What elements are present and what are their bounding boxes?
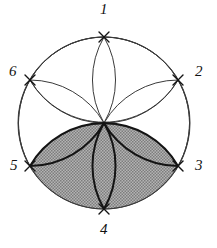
vertex-label-5: 5 (10, 158, 18, 173)
vertex-label-1: 1 (100, 2, 108, 17)
rosette-drawing (0, 0, 217, 248)
vertex-label-6: 6 (9, 64, 17, 79)
shaded-region-layer (30, 123, 178, 209)
vertex-label-4: 4 (100, 222, 108, 237)
vertex-label-2: 2 (195, 64, 203, 79)
arc-6-to-2-upper (30, 80, 178, 122)
arc-center-to-1-a (92, 37, 104, 123)
arc-center-to-1-b (104, 37, 116, 123)
vertex-label-3: 3 (195, 158, 203, 173)
rosette-figure: 1 2 3 4 5 6 (0, 0, 217, 248)
